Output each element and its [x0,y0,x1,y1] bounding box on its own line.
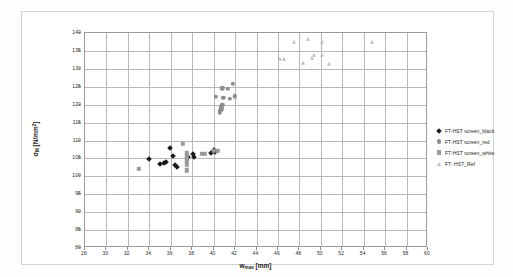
x-axis-tick-label: 44 [244,250,268,256]
x-axis-tick-label: 46 [265,250,289,256]
gridline-horizontal [85,230,426,231]
gridline-vertical [192,33,193,246]
y-axis-unit: [N/mm [32,126,39,148]
x-axis-tick-label: 52 [329,250,353,256]
x-axis-tick-label: 60 [415,250,439,256]
legend-item-label: FT-HST screen_red [445,139,490,145]
y-axis-tick-mark [78,68,81,69]
y-axis-tick-mark [78,50,81,51]
x-axis-tick-mark [406,247,407,250]
y-axis-tick-mark [78,157,81,158]
gridline-horizontal [85,69,426,70]
legend-item-triangle[interactable]: FT- HST_Ref [435,158,513,169]
gridline-vertical [171,33,172,246]
y-axis-superscript: 2 [32,124,37,127]
x-axis-tick-label: 54 [351,250,375,256]
legend-item-label: FT-HST screen_white [445,150,494,156]
gridline-vertical [364,33,365,246]
data-point-triangle [301,61,305,65]
x-axis-tick-mark [320,247,321,250]
x-axis-tick-label: 56 [372,250,396,256]
x-axis-tick-mark [298,247,299,250]
x-axis-title: wmax [mm] [84,262,427,270]
x-axis-tick-mark [105,247,106,250]
data-point-square [185,163,189,167]
x-axis-tick-label: 34 [136,250,160,256]
x-axis-tick-label: 48 [286,250,310,256]
gridline-horizontal [85,176,426,177]
gridline-horizontal [85,194,426,195]
x-axis-tick-label: 36 [158,250,182,256]
data-point-square [185,168,189,172]
y-axis-tick-mark [78,140,81,141]
legend-marker-circle-icon [435,138,443,146]
legend-item-square[interactable]: FT-HST screen_white [435,147,513,158]
y-axis-tick-mark [78,247,81,248]
legend-item-label: FT-HST screen_black [445,128,494,134]
x-axis-tick-mark [170,247,171,250]
data-point-triangle [370,40,374,44]
gridlines [85,33,426,246]
data-point-triangle [282,57,286,61]
y-axis-tick-mark [78,122,81,123]
legend-marker-square-icon [435,149,443,157]
x-axis-tick-mark [84,247,85,250]
y-axis-tick-mark [78,32,81,33]
data-point-square [180,142,184,146]
data-point-triangle [306,37,310,41]
gridline-vertical [385,33,386,246]
legend-item-label: FT- HST_Ref [445,161,475,167]
gridline-vertical [214,33,215,246]
legend-marker-triangle-icon [435,160,443,168]
y-axis-tick-mark [78,104,81,105]
y-axis-tick-mark [78,175,81,176]
x-axis-tick-label: 30 [93,250,117,256]
x-axis-tick-mark [256,247,257,250]
x-axis-tick-mark [234,247,235,250]
legend-item-circle[interactable]: FT-HST screen_red [435,136,513,147]
y-axis-unit-close: ] [32,121,39,123]
data-point-triangle [312,53,316,57]
gridline-vertical [342,33,343,246]
gridline-horizontal [85,158,426,159]
x-axis-unit: [mm] [254,262,272,269]
x-axis-tick-label: 32 [115,250,139,256]
y-axis-tick-mark [78,86,81,87]
y-axis-tick-mark [78,229,81,230]
y-axis-tick-mark [78,193,81,194]
legend-item-diamond[interactable]: FT-HST screen_black [435,125,513,136]
data-point-square [216,148,220,152]
y-axis-title: σM [N/mm2] [32,121,40,156]
gridline-vertical [321,33,322,246]
data-point-triangle [292,39,296,43]
data-point-triangle [320,39,324,43]
x-axis-tick-mark [213,247,214,250]
x-axis-tick-mark [127,247,128,250]
gridline-vertical [257,33,258,246]
gridline-vertical [128,33,129,246]
x-axis-tick-mark [363,247,364,250]
gridline-vertical [278,33,279,246]
x-axis-tick-label: 38 [179,250,203,256]
y-axis-tick-mark [78,211,81,212]
y-axis-tick-labels: 80859095100105110115120125130135140 [56,32,81,247]
gridline-horizontal [85,212,426,213]
x-axis-subscript: max [245,265,254,270]
legend-marker-diamond-icon [435,127,443,135]
x-axis-tick-mark [384,247,385,250]
y-axis-symbol: σ [32,152,39,156]
x-axis-tick-mark [191,247,192,250]
chart-legend: FT-HST screen_blackFT-HST screen_redFT-H… [435,125,513,169]
data-point-triangle [327,62,331,66]
chart-screenshot: 80859095100105110115120125130135140 2830… [0,0,513,277]
x-axis-tick-label: 58 [394,250,418,256]
gridline-vertical [407,33,408,246]
x-axis-tick-mark [148,247,149,250]
data-point-square [136,167,140,171]
data-point-square [203,152,207,156]
x-axis-tick-label: 42 [222,250,246,256]
gridline-horizontal [85,105,426,106]
x-axis-tick-mark [341,247,342,250]
x-axis-tick-mark [427,247,428,250]
chart-frame: 80859095100105110115120125130135140 2830… [21,11,494,265]
